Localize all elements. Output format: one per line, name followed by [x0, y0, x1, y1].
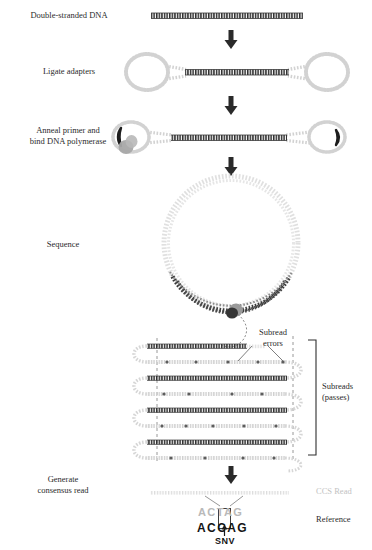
- step-label-ligate: Ligate adapters: [4, 66, 134, 77]
- annotation-subread-errors: Subread errors: [243, 327, 303, 348]
- arrow-3: [225, 157, 238, 176]
- polymerase-on-circle-icon: [226, 304, 243, 319]
- subreads-bracket: [308, 340, 316, 455]
- reference-bases: ACCAG: [197, 521, 248, 535]
- smrtbell-template: [126, 54, 348, 90]
- workflow-svg: [0, 0, 372, 550]
- primed-smrtbell: [113, 122, 345, 154]
- arrow-4: [225, 466, 238, 484]
- ccs-read-line: [150, 491, 289, 495]
- step-label-anneal: Anneal primer and bind DNA polymerase: [2, 125, 134, 146]
- rolling-circle-template: [164, 176, 298, 319]
- ccs-read-bases: ACTAG: [198, 506, 243, 518]
- subreads-serpentine: [134, 336, 301, 471]
- smrt-ccs-workflow-figure: Double-stranded DNA Ligate adapters Anne…: [0, 0, 372, 550]
- primer-right-icon: [336, 130, 339, 145]
- step-label-sequence: Sequence: [4, 239, 122, 250]
- annotation-subreads-passes: Subreads (passes): [322, 381, 372, 402]
- dsdna-duplex: [151, 13, 303, 19]
- annotation-ccs-read: CCS Read: [316, 486, 372, 497]
- annotation-reference: Reference: [316, 514, 372, 525]
- snv-label: SNV: [210, 536, 240, 546]
- arrow-1: [225, 30, 238, 49]
- alignment-leader-lines: [205, 496, 243, 506]
- step-label-consensus: Generate consensus read: [4, 474, 122, 495]
- step-label-dsdna: Double-stranded DNA: [4, 10, 134, 21]
- arrow-2: [225, 96, 238, 115]
